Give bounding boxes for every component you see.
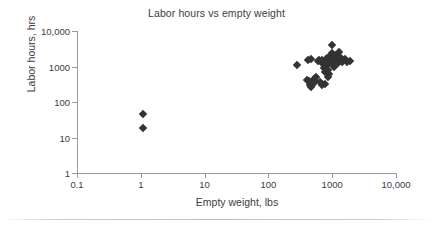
x-tick-label: 100 (260, 179, 276, 190)
y-tick-label: 10,000 (41, 26, 70, 37)
plot-area: 110100100010,000 0.1110100100010,000 (77, 31, 396, 173)
data-point (293, 61, 301, 69)
x-tick-label: 1000 (322, 179, 343, 190)
x-tick-label: 0.1 (70, 179, 83, 190)
x-tick-mark (141, 173, 142, 178)
y-tick-label: 1000 (49, 61, 70, 72)
y-tick-mark (72, 138, 77, 139)
y-tick-label: 10 (59, 132, 70, 143)
y-tick-label: 1 (65, 168, 70, 179)
x-axis-title: Empty weight, lbs (77, 196, 397, 208)
chart-figure: Labor hours vs empty weight Labor hours,… (0, 0, 433, 225)
chart-title: Labor hours vs empty weight (0, 7, 433, 19)
y-axis-title: Labor hours, hrs (25, 0, 37, 109)
y-tick-mark (72, 67, 77, 68)
x-tick-label: 10,000 (381, 179, 410, 190)
x-tick-mark (268, 173, 269, 178)
y-tick-mark (72, 102, 77, 103)
x-tick-label: 10 (199, 179, 210, 190)
x-tick-mark (205, 173, 206, 178)
x-tick-mark (77, 173, 78, 178)
x-tick-mark (332, 173, 333, 178)
data-point (139, 124, 147, 132)
y-tick-label: 100 (54, 97, 70, 108)
page-separator-rule (0, 219, 433, 220)
y-tick-mark (72, 31, 77, 32)
x-tick-label: 1 (138, 179, 143, 190)
x-tick-mark (396, 173, 397, 178)
data-point (139, 109, 147, 117)
